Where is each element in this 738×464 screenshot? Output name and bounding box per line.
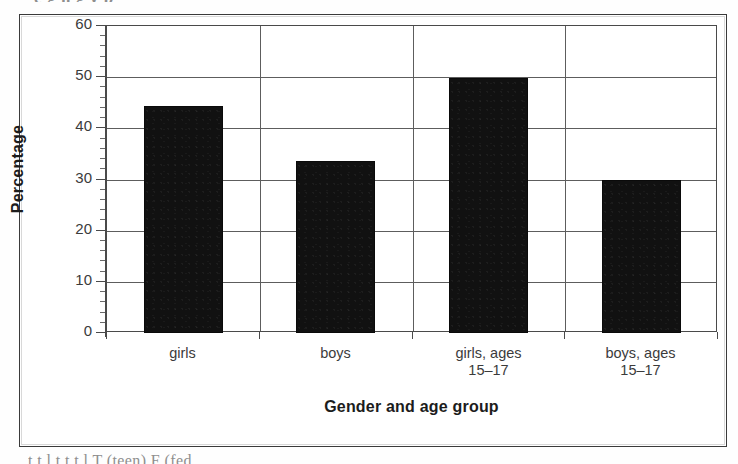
x-category-label-1: girls (106, 345, 259, 362)
category-divider-2 (413, 26, 414, 331)
x-category-label-3: girls, ages15–17 (412, 345, 565, 379)
bar-4 (602, 180, 681, 333)
y-tick-label-40: 40 (50, 117, 92, 134)
y-tick-label-10: 10 (50, 271, 92, 288)
y-tick-minor-38 (100, 138, 105, 139)
y-tick-minor-16 (100, 250, 105, 251)
y-tick-minor-2 (100, 322, 105, 323)
x-category-line: 15–17 (564, 362, 717, 379)
x-category-line: girls, ages (412, 345, 565, 362)
y-tick-minor-46 (100, 97, 105, 98)
y-axis-tick-labels: 0102030405060 (48, 0, 92, 463)
gridline-y-50 (107, 77, 716, 78)
y-tick-label-0: 0 (50, 322, 92, 339)
x-category-label-2: boys (259, 345, 412, 362)
category-divider-1 (260, 26, 261, 331)
bar-1 (144, 106, 223, 333)
y-tick-minor-42 (100, 117, 105, 118)
y-tick-minor-6 (100, 301, 105, 302)
x-axis-title: Gender and age group (106, 398, 717, 416)
y-tick-minor-22 (100, 219, 105, 220)
x-category-line: boys, ages (564, 345, 717, 362)
x-tick-1 (259, 332, 260, 339)
y-tick-minor-12 (100, 271, 105, 272)
y-tick-minor-48 (100, 86, 105, 87)
y-tick-minor-8 (100, 291, 105, 292)
y-tick-minor-26 (100, 199, 105, 200)
y-tick-minor-24 (100, 209, 105, 210)
bar-3 (449, 78, 528, 333)
y-tick-minor-34 (100, 158, 105, 159)
x-tick-3 (564, 332, 565, 339)
x-tick-0 (106, 332, 107, 339)
y-tick-major-30 (96, 179, 105, 180)
scan-bleed-bottom-text: t t l t t t l T (teen) F (fed (0, 452, 738, 464)
y-tick-minor-36 (100, 148, 105, 149)
y-tick-minor-18 (100, 240, 105, 241)
y-tick-minor-54 (100, 56, 105, 57)
y-tick-major-60 (96, 25, 105, 26)
y-tick-major-0 (96, 332, 105, 333)
y-tick-minor-58 (100, 35, 105, 36)
x-category-line: girls (106, 345, 259, 362)
y-tick-label-50: 50 (50, 66, 92, 83)
y-tick-minor-56 (100, 45, 105, 46)
y-axis-title: Percentage (9, 89, 27, 249)
bar-2 (296, 161, 375, 333)
y-tick-major-40 (96, 127, 105, 128)
y-tick-major-50 (96, 76, 105, 77)
y-tick-label-60: 60 (50, 15, 92, 32)
y-tick-minor-32 (100, 168, 105, 169)
x-category-line: boys (259, 345, 412, 362)
y-tick-label-20: 20 (50, 220, 92, 237)
y-tick-major-10 (96, 281, 105, 282)
x-tick-4 (717, 332, 718, 339)
y-tick-label-30: 30 (50, 169, 92, 186)
y-tick-minor-14 (100, 260, 105, 261)
x-category-line: 15–17 (412, 362, 565, 379)
y-tick-major-20 (96, 230, 105, 231)
x-category-label-4: boys, ages15–17 (564, 345, 717, 379)
y-tick-minor-28 (100, 189, 105, 190)
category-divider-3 (565, 26, 566, 331)
y-tick-minor-4 (100, 312, 105, 313)
y-tick-minor-52 (100, 66, 105, 67)
plot-area (106, 25, 717, 332)
y-tick-minor-44 (100, 107, 105, 108)
x-tick-2 (412, 332, 413, 339)
